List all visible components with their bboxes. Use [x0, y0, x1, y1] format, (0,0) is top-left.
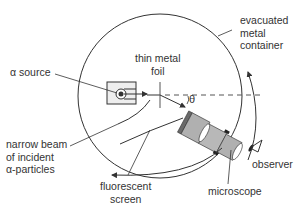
- label-narrow-beam: narrow beam of incident α-particles: [6, 138, 67, 176]
- observer-eye-icon: [248, 140, 262, 152]
- label-fluorescent-screen: fluorescent screen: [100, 180, 151, 205]
- label-microscope: microscope: [208, 185, 262, 198]
- leader-narrow-beam: [70, 124, 118, 146]
- label-thin-metal-foil: thin metal foil: [135, 52, 181, 77]
- rotation-arrow-up: [248, 72, 256, 160]
- label-evacuated-container: evacuated metal container: [240, 14, 288, 52]
- label-alpha-source: α source: [10, 66, 51, 79]
- label-observer: observer: [252, 158, 293, 171]
- leader-fluorescent-screen: [128, 130, 150, 175]
- fluorescent-screen-arc: [120, 118, 183, 144]
- leader-container: [218, 30, 232, 36]
- deflected-path: [160, 95, 185, 107]
- label-theta: θ: [189, 93, 195, 106]
- alpha-source-box: [107, 82, 136, 104]
